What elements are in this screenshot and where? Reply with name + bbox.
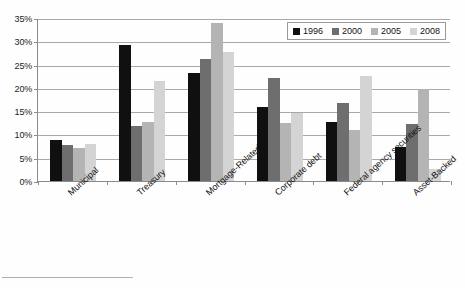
legend-item-2000[interactable]: 2000 — [332, 26, 362, 36]
x-tick-mark — [107, 181, 108, 185]
bar[interactable] — [337, 103, 349, 181]
x-tick-mark — [382, 181, 383, 185]
bar[interactable] — [119, 45, 131, 181]
x-tick-mark — [245, 181, 246, 185]
bar-group — [50, 19, 96, 181]
y-axis-tick-label: 5% — [19, 154, 32, 164]
bar[interactable] — [62, 145, 74, 181]
legend-item-2008[interactable]: 2008 — [410, 26, 440, 36]
legend-swatch-icon — [332, 28, 339, 35]
bar[interactable] — [188, 73, 200, 182]
bar-group — [188, 19, 234, 181]
legend-label: 2008 — [420, 26, 440, 36]
y-axis-tick-label: 25% — [15, 61, 32, 71]
legend-label: 2000 — [342, 26, 362, 36]
legend-swatch-icon — [371, 28, 378, 35]
chart-legend: 1996200020052008 — [287, 22, 446, 40]
bar[interactable] — [268, 78, 280, 181]
bar-group — [326, 19, 372, 181]
bar[interactable] — [326, 122, 338, 181]
legend-label: 1996 — [303, 26, 323, 36]
bar[interactable] — [50, 140, 62, 181]
bar-group — [257, 19, 303, 181]
legend-swatch-icon — [293, 28, 300, 35]
y-axis-tick-label: 10% — [15, 130, 32, 140]
legend-swatch-icon — [410, 28, 417, 35]
y-axis-tick-label: 20% — [15, 84, 32, 94]
chart-page: 0%5%10%15%20%25%30%35% MunicipalTreasury… — [0, 0, 465, 288]
x-tick-mark — [176, 181, 177, 185]
bar[interactable] — [142, 122, 154, 181]
legend-item-1996[interactable]: 1996 — [293, 26, 323, 36]
legend-label: 2005 — [381, 26, 401, 36]
bar[interactable] — [211, 23, 223, 181]
bar-group — [119, 19, 165, 181]
bottom-rule — [2, 277, 133, 278]
y-axis-tick-label: 0% — [19, 177, 32, 187]
x-tick-mark — [38, 181, 39, 185]
bar[interactable] — [280, 123, 292, 181]
bar[interactable] — [131, 126, 143, 181]
y-axis-tick-label: 30% — [15, 37, 32, 47]
bar[interactable] — [257, 107, 269, 182]
x-tick-mark — [313, 181, 314, 185]
legend-item-2005[interactable]: 2005 — [371, 26, 401, 36]
bar[interactable] — [418, 89, 430, 181]
bar[interactable] — [223, 52, 235, 181]
bar[interactable] — [200, 59, 212, 181]
y-axis-tick-label: 15% — [15, 107, 32, 117]
y-axis-tick-label: 35% — [15, 14, 32, 24]
x-tick-mark — [451, 181, 452, 185]
bar-group — [395, 19, 441, 181]
